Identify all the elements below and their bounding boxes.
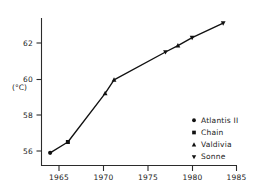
legend-marker-square — [192, 131, 196, 135]
legend-label: Sonne — [201, 152, 226, 161]
legend-label: Chain — [201, 128, 223, 137]
y-tick-label: 62 — [23, 39, 33, 48]
temperature-trend-chart: 62 60 58 56 (°C) 1965 1970 1975 1980 198… — [0, 0, 259, 191]
data-point-circle — [48, 151, 52, 155]
y-axis-label: (°C) — [12, 83, 27, 92]
chart-background — [0, 0, 259, 191]
x-tick-label: 1970 — [94, 173, 114, 182]
y-tick-label: 56 — [23, 147, 33, 156]
x-tick-label: 1985 — [227, 173, 247, 182]
x-tick-label: 1980 — [183, 173, 203, 182]
legend-marker-circle — [192, 118, 196, 122]
legend-label: Valdivia — [201, 140, 232, 149]
data-point-square — [66, 140, 70, 144]
y-tick-label: 58 — [23, 111, 33, 120]
legend-label: Atlantis II — [201, 116, 238, 125]
x-tick-label: 1965 — [49, 173, 69, 182]
x-tick-label: 1975 — [138, 173, 158, 182]
